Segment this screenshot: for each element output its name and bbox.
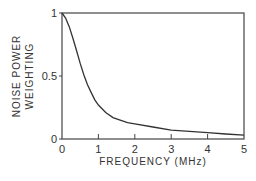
x-axis-ticks: 012345 bbox=[59, 134, 247, 155]
x-tick-label: 1 bbox=[95, 143, 101, 155]
x-tick-label: 0 bbox=[59, 143, 65, 155]
x-tick-label: 2 bbox=[132, 143, 138, 155]
x-tick-label: 3 bbox=[168, 143, 174, 155]
y-axis-ticks: 00.51 bbox=[42, 7, 62, 145]
y-tick-label: 0.5 bbox=[42, 70, 57, 82]
y-tick-label: 1 bbox=[51, 7, 57, 19]
y-axis-title-line-1: NOISE POWER bbox=[11, 35, 22, 118]
x-tick-label: 5 bbox=[241, 143, 247, 155]
y-tick-label: 0 bbox=[51, 133, 57, 145]
plot-frame bbox=[62, 13, 244, 139]
x-axis-title: FREQUENCY (MHz) bbox=[99, 156, 207, 167]
y-axis-title: NOISE POWER WEIGHTING bbox=[11, 35, 35, 118]
data-line bbox=[62, 13, 244, 135]
y-axis-title-line-2: WEIGHTING bbox=[24, 43, 35, 110]
chart: 012345 00.51 FREQUENCY (MHz) NOISE POWER… bbox=[0, 0, 256, 181]
x-tick-label: 4 bbox=[205, 143, 211, 155]
